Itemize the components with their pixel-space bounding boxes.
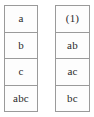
table-row: ac xyxy=(56,59,89,86)
table-row: bc xyxy=(56,86,89,112)
cell-value: c xyxy=(18,66,23,77)
cell-value: bc xyxy=(67,93,78,104)
table-row: a xyxy=(5,6,37,33)
cell-value: b xyxy=(18,40,24,51)
cell-value: abc xyxy=(13,93,29,104)
cell-value: (1) xyxy=(66,13,79,24)
right-table: (1) ab ac bc xyxy=(55,5,90,112)
cell-value: a xyxy=(18,13,23,24)
table-row: b xyxy=(5,33,37,60)
table-row: abc xyxy=(5,86,37,112)
table-row: (1) xyxy=(56,6,89,33)
table-row: c xyxy=(5,59,37,86)
cell-value: ac xyxy=(67,66,77,77)
figure-canvas: a b c abc (1) ab ac bc xyxy=(0,0,94,117)
cell-value: ab xyxy=(67,40,78,51)
left-table: a b c abc xyxy=(4,5,38,112)
table-row: ab xyxy=(56,33,89,60)
